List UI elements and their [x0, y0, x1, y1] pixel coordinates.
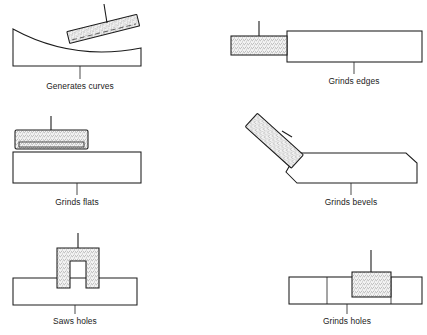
panel-caption: Grinds holes — [323, 316, 371, 326]
tool-abrasive-hole-grinder — [352, 250, 391, 297]
panel-caption: Grinds flats — [55, 197, 99, 207]
panel-caption: Grinds edges — [328, 76, 379, 86]
abrasive-body — [352, 272, 391, 297]
panel-grinds-holes: Grinds holes — [289, 250, 422, 326]
panel-saws-holes: Saws holes — [13, 233, 137, 326]
operations-figure: Generates curves Grinds edges Grinds fla… — [0, 0, 427, 335]
tool-stem — [282, 131, 292, 137]
panel-caption: Generates curves — [46, 81, 114, 91]
panel-generates-curves: Generates curves — [13, 4, 141, 91]
tool-stem — [104, 4, 107, 23]
panel-grinds-edges: Grinds edges — [231, 21, 422, 86]
panel-caption: Grinds bevels — [325, 197, 378, 207]
abrasive-body — [231, 36, 287, 55]
panel-grinds-bevels: Grinds bevels — [245, 113, 417, 207]
tool-tilted-abrasive-stick — [67, 4, 140, 43]
abrasive-body — [245, 113, 303, 168]
tool-horizontal-abrasive-wheel — [231, 21, 287, 55]
abrasive-body — [15, 130, 88, 149]
panel-caption: Saws holes — [53, 316, 97, 326]
workpiece-chamfered-bar — [286, 153, 417, 183]
abrasive-body — [67, 14, 140, 43]
tool-flat-abrasive-pad — [15, 116, 88, 149]
tool-angled-abrasive-stick — [245, 113, 303, 168]
workpiece-bar — [13, 152, 141, 183]
panel-grinds-flats: Grinds flats — [13, 116, 141, 207]
workpiece-slotted-bar — [13, 278, 137, 305]
workpiece-bar — [287, 31, 422, 62]
